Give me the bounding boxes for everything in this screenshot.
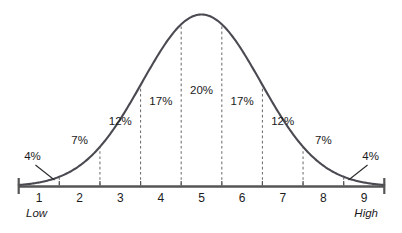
x-axis-tick-marks-group <box>59 181 343 186</box>
x-axis-tick-label-6: 6 <box>239 191 246 205</box>
segment-percentage-label-4: 17% <box>149 95 172 107</box>
callout-leader-line-1 <box>35 165 54 180</box>
callout-leader-line-9 <box>349 165 368 180</box>
segment-percentage-label-8: 7% <box>315 134 332 146</box>
x-axis-tick-label-4: 4 <box>158 191 165 205</box>
divider-lines-group <box>59 25 343 185</box>
chart-canvas: 4%7%12%17%20%17%12%7%4% 123456789 Low Hi… <box>0 0 402 233</box>
x-axis-tick-label-7: 7 <box>279 191 286 205</box>
x-axis-tick-label-8: 8 <box>320 191 327 205</box>
segment-percentage-label-1: 4% <box>24 150 41 162</box>
x-axis-tick-label-2: 2 <box>76 191 83 205</box>
bell-curve-chart: 4%7%12%17%20%17%12%7%4% 123456789 Low Hi… <box>0 0 402 233</box>
segment-percentage-label-9: 4% <box>362 150 379 162</box>
x-axis-tick-label-5: 5 <box>198 191 205 205</box>
segment-percentage-label-2: 7% <box>71 134 88 146</box>
segment-percentage-label-6: 17% <box>231 95 254 107</box>
segment-percentage-label-7: 12% <box>271 115 294 127</box>
x-axis-tick-label-9: 9 <box>361 191 368 205</box>
bell-curve-path <box>19 15 385 186</box>
axis-high-label: High <box>354 207 378 219</box>
segment-percentage-labels-group: 4%7%12%17%20%17%12%7%4% <box>24 84 379 163</box>
callout-leader-lines-group <box>35 165 367 180</box>
x-axis-tick-label-1: 1 <box>36 191 43 205</box>
segment-percentage-label-5: 20% <box>190 84 213 96</box>
axis-low-label: Low <box>26 207 48 219</box>
segment-percentage-label-3: 12% <box>109 115 132 127</box>
x-axis-tick-label-3: 3 <box>117 191 124 205</box>
x-axis-tick-labels-group: 123456789 <box>36 191 368 205</box>
